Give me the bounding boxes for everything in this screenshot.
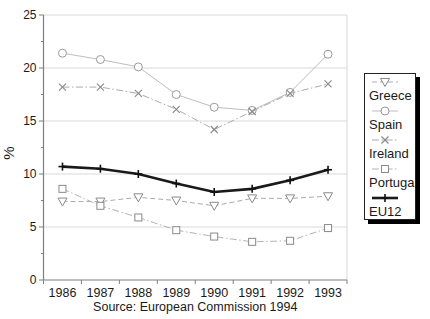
svg-text:1992: 1992 [276, 286, 304, 300]
chart-legend: Greece Spain Ireland Portugal EU12 [364, 73, 416, 220]
svg-text:1991: 1991 [238, 286, 266, 300]
svg-text:1987: 1987 [87, 286, 115, 300]
series-portugal [59, 185, 332, 245]
legend-entry-eu12: EU12 [369, 192, 415, 221]
legend-entry-ireland: Ireland [369, 134, 415, 163]
legend-sample-ireland [370, 134, 400, 146]
legend-entry-portugal: Portugal [369, 163, 415, 192]
svg-text:1989: 1989 [162, 286, 190, 300]
legend-entry-spain: Spain [369, 105, 415, 134]
svg-text:10: 10 [23, 167, 37, 181]
plot-border [44, 15, 348, 280]
svg-text:1986: 1986 [49, 286, 77, 300]
series-eu12 [58, 163, 332, 196]
y-axis-title: % [0, 146, 17, 159]
legend-label-spain: Spain [369, 117, 415, 132]
axes [44, 15, 348, 280]
svg-text:25: 25 [23, 8, 37, 22]
legend-sample-spain [370, 105, 400, 117]
svg-text:20: 20 [23, 61, 37, 75]
x-axis-ticks-labels: 19861987198819891990199119921993 [44, 280, 348, 300]
svg-text:15: 15 [23, 114, 37, 128]
source-caption: Source: European Commission 1994 [93, 300, 297, 314]
svg-text:%: % [0, 146, 17, 159]
legend-label-greece: Greece [369, 88, 415, 103]
legend-sample-greece [370, 76, 400, 88]
legend-label-eu12: EU12 [369, 204, 415, 219]
legend-sample-eu12 [370, 192, 400, 204]
legend-entry-greece: Greece [369, 76, 415, 105]
svg-text:1990: 1990 [200, 286, 228, 300]
svg-text:Source: European Commission 19: Source: European Commission 1994 [93, 300, 297, 314]
svg-text:0: 0 [30, 273, 37, 287]
legend-label-ireland: Ireland [369, 146, 415, 161]
svg-text:5: 5 [30, 220, 37, 234]
series-spain [58, 49, 332, 114]
svg-text:1988: 1988 [124, 286, 152, 300]
svg-text:1993: 1993 [314, 286, 342, 300]
legend-sample-portugal [370, 163, 400, 175]
y-axis-ticks-labels: 0510152025 [23, 8, 43, 287]
y-gridlines [44, 68, 348, 227]
legend-label-portugal: Portugal [369, 175, 415, 190]
unemployment-line-chart: 0510152025198619871988198919901991199219… [0, 0, 430, 319]
